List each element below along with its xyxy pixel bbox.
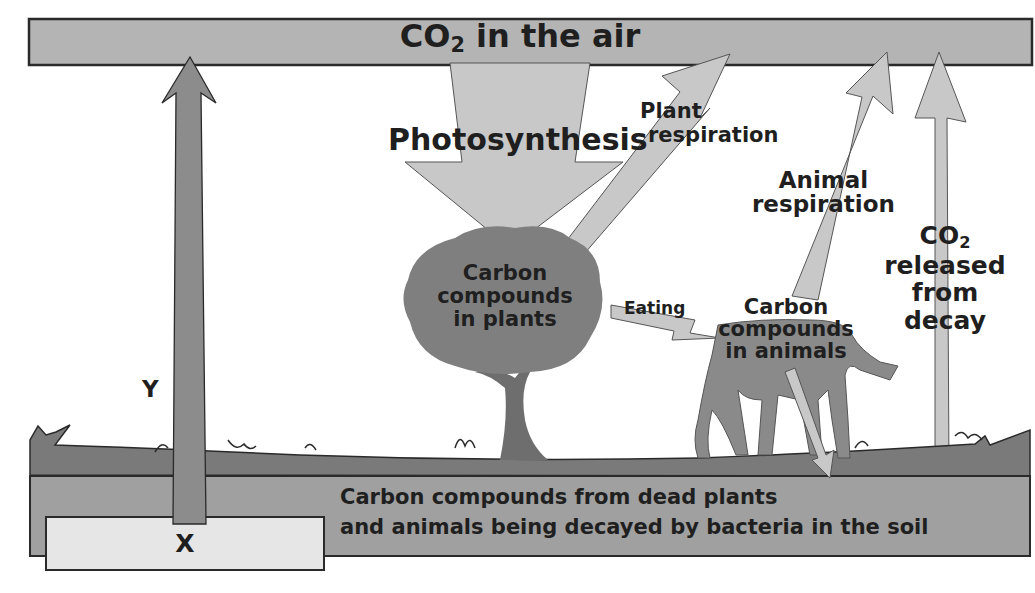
- photosynthesis-label: Photosynthesis: [388, 124, 648, 156]
- animal-respiration-label: Animal respiration: [752, 168, 895, 216]
- grass-tufts: [155, 432, 982, 452]
- air-box-label: CO2 in the air: [370, 20, 670, 57]
- y-label: Y: [142, 377, 159, 401]
- x-label: X: [46, 531, 324, 557]
- animals-label: Carbon compounds in animals: [706, 296, 866, 362]
- plant-respiration-label-2: respiration: [648, 124, 778, 146]
- plant-respiration-label: Plant: [640, 100, 702, 122]
- decay-co2-label: CO2 released from decay: [880, 222, 1010, 334]
- eating-label: Eating: [624, 300, 685, 318]
- soil-label: Carbon compounds from dead plants and an…: [340, 482, 928, 543]
- plants-label: Carbon compounds in plants: [425, 262, 585, 331]
